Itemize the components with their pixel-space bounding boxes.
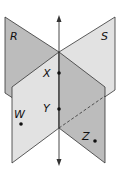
label-z: Z [81, 130, 90, 143]
label-x: X [42, 67, 51, 80]
label-plane-r: R [10, 30, 18, 43]
point-y [57, 107, 61, 111]
point-z [93, 139, 97, 143]
point-x [57, 71, 61, 75]
intersecting-planes-diagram: R S X Y W Z [0, 0, 124, 169]
arrow-up-icon [57, 15, 62, 22]
arrow-down-icon [57, 159, 62, 166]
label-plane-s: S [101, 30, 108, 43]
point-w [19, 122, 23, 126]
label-w: W [14, 108, 26, 121]
